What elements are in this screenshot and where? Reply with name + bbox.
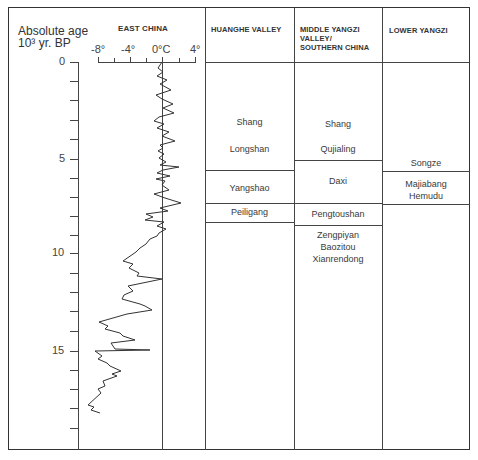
temperature-scale <box>98 57 196 450</box>
age-axis <box>70 62 79 450</box>
temperature-curve <box>88 62 181 413</box>
diagram-lines <box>0 0 478 460</box>
